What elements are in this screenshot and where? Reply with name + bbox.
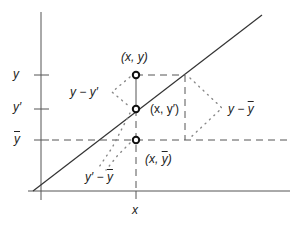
x-axis-label: x [132,204,138,216]
point-label-observed: (x, y) [121,51,148,63]
point-predicted [133,106,139,112]
point-label-mean-pre: (x, [145,152,162,166]
brace-label-yprime-ybar-ybar: y [107,170,113,184]
brace-y-yprime [112,77,130,107]
brace-yprime-ybar-2 [106,143,130,170]
brace-label-yprime-ybar: y′ − y [85,171,113,183]
tick-label-yprime: y′ [13,101,21,113]
brace-label-y-ybar-ybar: y [248,102,254,116]
tick-label-ybar: y [14,133,20,145]
point-observed [133,72,139,78]
brace-label-y-yprime: y − y′ [70,86,98,98]
point-mean [133,137,139,143]
brace-y-ybar [190,78,222,138]
tick-label-y: y [13,68,19,80]
brace-label-yprime-ybar-pre: y′ − [85,170,107,184]
brace-label-y-ybar: y − y [228,103,254,115]
brace-label-y-ybar-pre: y − [228,102,248,116]
point-label-predicted: (x, y′) [150,103,179,115]
regression-deviation-diagram: y y′ y x (x, y) (x, y′) (x, y) y − y′ y … [0,0,299,225]
point-label-mean-post: ) [168,152,172,166]
point-label-mean: (x, y) [145,153,172,165]
